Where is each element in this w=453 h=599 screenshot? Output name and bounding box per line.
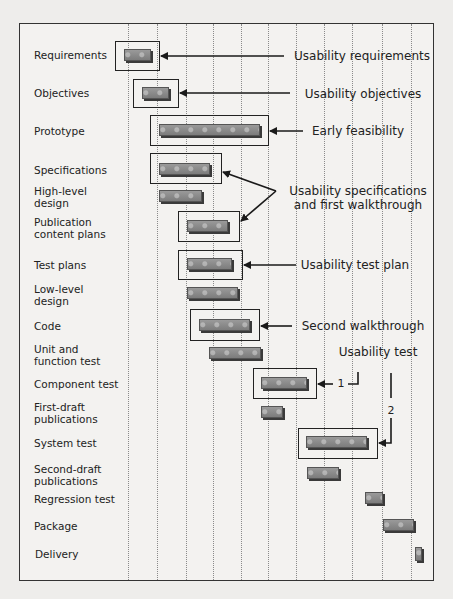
annotation-arrows (0, 0, 453, 599)
